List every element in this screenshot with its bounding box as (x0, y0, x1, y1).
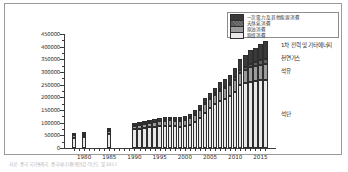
x-axis-tick (79, 148, 80, 151)
y-axis-minor-tick (62, 142, 64, 143)
y-axis-tick (60, 97, 64, 98)
x-axis-tick-label: 2015 (253, 154, 267, 160)
bar-column (137, 122, 141, 148)
bar-column (233, 68, 237, 148)
bar-column (198, 105, 202, 148)
bar-segment-oil (183, 120, 187, 127)
bar-column (203, 98, 207, 148)
y-axis-tick-label: 100000 (41, 120, 60, 126)
bar-segment-oil (228, 85, 232, 96)
y-axis-minor-tick (62, 40, 64, 41)
x-axis-tick (140, 148, 141, 151)
bar-column (263, 41, 267, 148)
bar-segment-elec (188, 114, 192, 117)
y-axis-tick-label: 400000 (41, 44, 60, 50)
bar-segment-coal (243, 83, 247, 148)
bar-segment-oil (168, 120, 172, 126)
bar-segment-oil (208, 99, 212, 108)
legend-item-oil: 原油消費 (230, 26, 336, 32)
bar-segment-elec (263, 41, 267, 59)
bar-column (107, 129, 111, 148)
y-axis-tick (60, 123, 64, 124)
x-axis-tick (89, 148, 90, 151)
x-axis-tick-label: 2000 (178, 154, 192, 160)
bar-segment-coal (203, 113, 207, 148)
x-axis-tick-label: 2005 (203, 154, 217, 160)
bar-segment-gas (248, 64, 252, 68)
x-axis-tick (104, 148, 105, 151)
x-axis-tick (230, 148, 231, 151)
bar-segment-gas (233, 77, 237, 80)
x-axis-tick (215, 148, 216, 151)
bar-segment-oil (238, 73, 242, 86)
bar-segment-elec (198, 105, 202, 109)
bar-segment-coal (233, 92, 237, 148)
x-axis-tick (255, 148, 256, 151)
bar-segment-coal (213, 104, 217, 148)
legend-item-electricity: 一次電力及其他能源消費 (230, 15, 336, 21)
y-axis-line (64, 34, 65, 149)
bar-segment-coal (147, 127, 151, 148)
bar-segment-oil (203, 104, 207, 113)
bar-segment-coal (208, 108, 212, 148)
chart-figure-frame: 4500004000003500003000002500002000001500… (4, 3, 342, 155)
y-axis-tick-label: 300000 (41, 69, 60, 75)
bar-segment-oil (173, 121, 177, 127)
legend-item-coal: 原煤消費 (230, 32, 336, 38)
x-axis-tick (109, 148, 110, 151)
bar-segment-coal (188, 125, 192, 148)
bar-column (188, 114, 192, 148)
y-axis-minor-tick (62, 91, 64, 92)
annotation-coal: 석탄 (281, 110, 291, 118)
y-axis-minor-tick (62, 129, 64, 130)
bar-column (183, 116, 187, 148)
x-axis-tick (205, 148, 206, 151)
bar-segment-coal (183, 126, 187, 148)
y-axis-tick-label: 200000 (41, 94, 60, 100)
chart-legend: 一次電力及其他能源消費 天然氣消費 原油消費 原煤消費 (227, 12, 339, 38)
bar-segment-elec (233, 68, 237, 77)
x-axis-tick (200, 148, 201, 151)
x-axis-tick-label: 2010 (228, 154, 242, 160)
bar-segment-oil (258, 65, 262, 80)
bar-column (258, 44, 262, 148)
x-axis-tick (99, 148, 100, 151)
bar-segment-oil (218, 91, 222, 101)
bar-segment-gas (258, 60, 262, 64)
bar-segment-coal (253, 81, 257, 148)
bar-column (132, 123, 136, 148)
x-axis-tick (195, 148, 196, 151)
x-axis-tick (175, 148, 176, 151)
bar-column (82, 133, 86, 148)
bar-segment-elec (193, 110, 197, 114)
bar-segment-elec (243, 55, 247, 67)
bar-segment-elec (178, 117, 182, 120)
y-axis-tick (60, 34, 64, 35)
bar-column (163, 117, 167, 148)
x-axis-tick (220, 148, 221, 151)
bar-segment-elec (228, 75, 232, 83)
bar-segment-oil (248, 67, 252, 81)
bar-column (147, 120, 151, 148)
y-axis-minor-tick (62, 104, 64, 105)
bar-segment-elec (147, 120, 151, 122)
bar-column (243, 55, 247, 148)
y-axis-labels: 4500004000003500003000002500002000001500… (5, 34, 60, 149)
bar-segment-oil (243, 70, 247, 83)
x-axis-tick (145, 148, 146, 151)
bar-segment-oil (193, 115, 197, 122)
x-axis-tick (155, 148, 156, 151)
bar-segment-coal (163, 126, 167, 148)
y-axis-tick-label: 450000 (41, 31, 60, 37)
bar-column (238, 59, 242, 148)
x-axis-tick-label: 1990 (127, 154, 141, 160)
y-axis-tick-label: 250000 (41, 82, 60, 88)
bar-segment-elec (253, 48, 257, 63)
bar-column (228, 75, 232, 148)
bar-column (208, 93, 212, 148)
bar-segment-elec (238, 59, 242, 70)
annotation-natural-gas: 천연가스 (281, 54, 300, 62)
plot-area: 19801985199019952000200520102015 (64, 34, 274, 149)
bar-segment-oil (142, 124, 146, 128)
bar-segment-elec (142, 121, 146, 123)
